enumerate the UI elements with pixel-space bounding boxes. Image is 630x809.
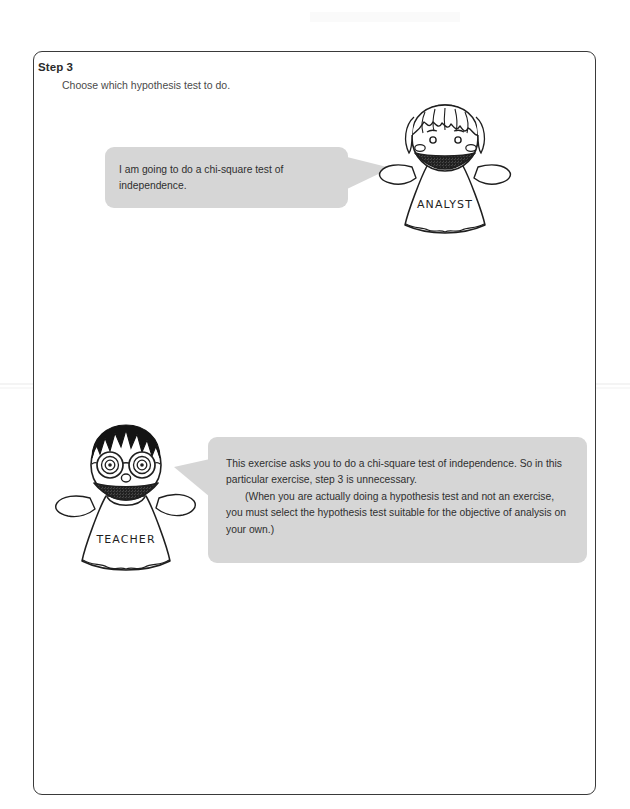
analyst-blush-left bbox=[415, 145, 425, 152]
speech-bubble-teacher-text: This exercise asks you to do a chi-squar… bbox=[226, 456, 568, 538]
teacher-left-arm bbox=[56, 496, 95, 517]
teacher-eye-left bbox=[108, 463, 112, 467]
analyst-eye-right bbox=[455, 137, 461, 143]
analyst-left-arm bbox=[380, 165, 416, 184]
teacher-nose bbox=[121, 474, 130, 482]
teacher-shirt-label: TEACHER bbox=[95, 533, 155, 546]
analyst-mouth bbox=[415, 153, 475, 169]
step-description: Choose which hypothesis test to do. bbox=[38, 78, 538, 93]
bubble-paragraph: This exercise asks you to do a chi-squar… bbox=[226, 456, 568, 489]
analyst-blush-right bbox=[466, 145, 476, 152]
speech-bubble-analyst-text: I am going to do a chi-square test of in… bbox=[119, 162, 332, 195]
speech-bubble-teacher: This exercise asks you to do a chi-squar… bbox=[208, 437, 587, 563]
analyst-shirt-label: ANALYST bbox=[417, 198, 473, 211]
teacher-character-icon: TEACHER bbox=[52, 420, 200, 580]
speech-bubble-analyst: I am going to do a chi-square test of in… bbox=[105, 147, 348, 208]
step-header: Step 3 Choose which hypothesis test to d… bbox=[38, 60, 538, 93]
teacher-right-arm bbox=[156, 494, 195, 515]
analyst-right-arm bbox=[474, 165, 510, 184]
teacher-eye-right bbox=[140, 463, 144, 467]
scan-artifact-top bbox=[310, 12, 460, 22]
analyst-eye-left bbox=[430, 137, 436, 143]
analyst-character-icon: ANALYST bbox=[378, 103, 512, 237]
bubble-paragraph: (When you are actually doing a hypothesi… bbox=[226, 489, 568, 538]
page-title: Step 3 bbox=[38, 60, 538, 75]
bubble-paragraph: I am going to do a chi-square test of in… bbox=[119, 162, 332, 195]
